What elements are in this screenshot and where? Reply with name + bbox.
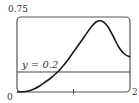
reference-line-label: y = 0.2	[21, 59, 58, 70]
x-min-label: 0	[7, 92, 13, 102]
plot-frame	[17, 17, 130, 92]
x-max-label: 2	[132, 87, 138, 97]
chart: 0.75 0 2 y = 0.2	[0, 0, 139, 103]
function-curve	[17, 21, 130, 92]
y-max-label: 0.75	[8, 4, 28, 14]
